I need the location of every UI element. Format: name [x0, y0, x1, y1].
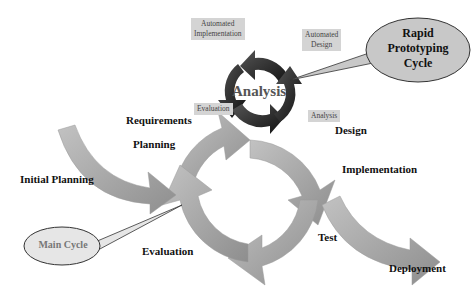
- label-initial-planning: Initial Planning: [20, 173, 94, 185]
- label-requirements: Requirements: [126, 114, 192, 126]
- box-line: Automated: [305, 30, 338, 39]
- rapid-line: Prototyping: [387, 41, 448, 55]
- label-planning: Planning: [133, 138, 175, 150]
- rapid-callout-text: Rapid Prototyping Cycle: [372, 26, 464, 71]
- rapid-line: Rapid: [402, 26, 433, 40]
- center-label-analysis: Analysis: [232, 83, 286, 100]
- box-automated-design: Automated Design: [302, 29, 341, 51]
- label-evaluation: Evaluation: [142, 245, 193, 257]
- label-test: Test: [318, 231, 337, 243]
- box-automated-implementation: Automated Implementation: [191, 18, 245, 40]
- box-evaluation: Evaluation: [194, 103, 233, 115]
- main-callout-text: Main Cycle: [28, 239, 98, 250]
- main-callout-pointer: [95, 205, 182, 250]
- rapid-callout-pointer: [290, 52, 378, 80]
- rapid-line: Cycle: [404, 56, 433, 70]
- box-analysis: Analysis: [308, 110, 340, 122]
- box-line: Design: [311, 40, 332, 49]
- label-implementation: Implementation: [342, 163, 417, 175]
- label-deployment: Deployment: [389, 262, 446, 274]
- label-design: Design: [335, 124, 367, 136]
- main-cycle-arrows: [162, 112, 335, 285]
- box-line: Automated: [201, 19, 234, 28]
- box-line: Implementation: [194, 29, 242, 38]
